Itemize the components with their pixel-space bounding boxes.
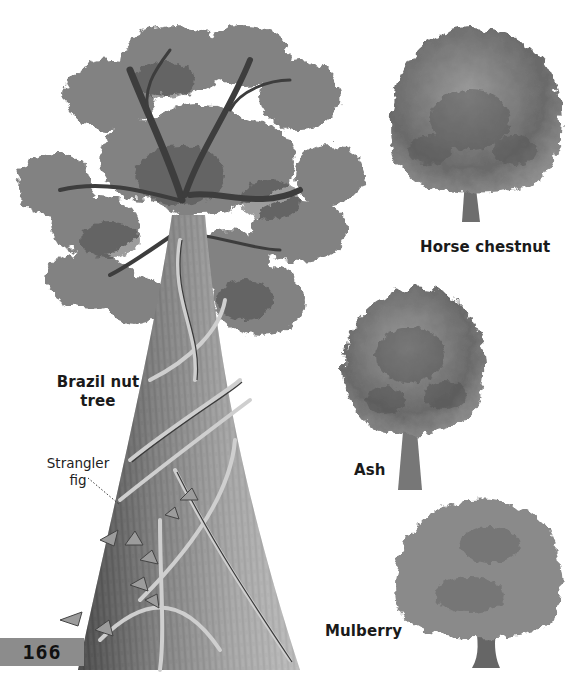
- illustration-canvas: [0, 0, 588, 686]
- label-brazil-nut-tree: Brazil nut tree: [48, 373, 148, 411]
- ash-illustration: [343, 288, 485, 490]
- label-brazil-nut-tree-line-1: Brazil nut: [48, 373, 148, 392]
- horse-chestnut-illustration: [391, 28, 561, 222]
- callout-strangler-fig-line-1: Strangler: [40, 455, 116, 472]
- label-mulberry: Mulberry: [325, 622, 405, 641]
- page-number: 166: [22, 640, 61, 664]
- label-ash: Ash: [354, 461, 394, 480]
- mulberry-illustration: [393, 499, 563, 668]
- label-horse-chestnut: Horse chestnut: [420, 238, 568, 257]
- callout-strangler-fig: Strangler fig: [40, 455, 116, 489]
- brazil-nut-tree-illustration: [17, 25, 365, 670]
- label-brazil-nut-tree-line-2: tree: [48, 392, 148, 411]
- callout-strangler-fig-line-2: fig: [40, 472, 116, 489]
- page-number-tab: 166: [0, 638, 84, 666]
